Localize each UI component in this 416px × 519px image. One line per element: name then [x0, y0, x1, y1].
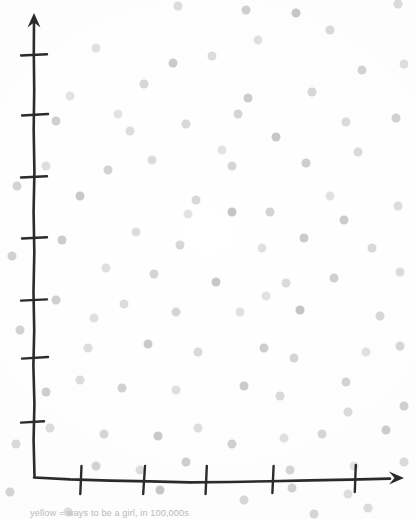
x-axis-tick — [272, 466, 273, 493]
y-axis-tick — [22, 357, 48, 359]
x-axis-arrowhead — [389, 472, 404, 485]
x-axis-tick — [80, 466, 81, 494]
x-axis-tick — [355, 465, 356, 492]
y-axis-tick — [22, 237, 47, 238]
hand-drawn-axes — [0, 0, 416, 519]
y-axis-tick — [21, 299, 47, 300]
scatter-plot-page: yellow = ways to be a girl, in 100,000s — [0, 0, 416, 519]
y-axis-tick — [21, 421, 44, 422]
x-axis-group — [34, 465, 404, 494]
y-axis-group — [21, 13, 48, 476]
x-axis-line — [34, 478, 390, 483]
y-axis-tick — [22, 114, 48, 116]
legend-caption: yellow = ways to be a girl, in 100,000s — [30, 508, 189, 518]
y-axis-tick — [21, 176, 47, 177]
x-axis-tick — [143, 466, 145, 494]
y-axis-line — [33, 22, 34, 476]
x-axis-tick — [206, 466, 207, 494]
y-axis-tick — [21, 54, 47, 55]
